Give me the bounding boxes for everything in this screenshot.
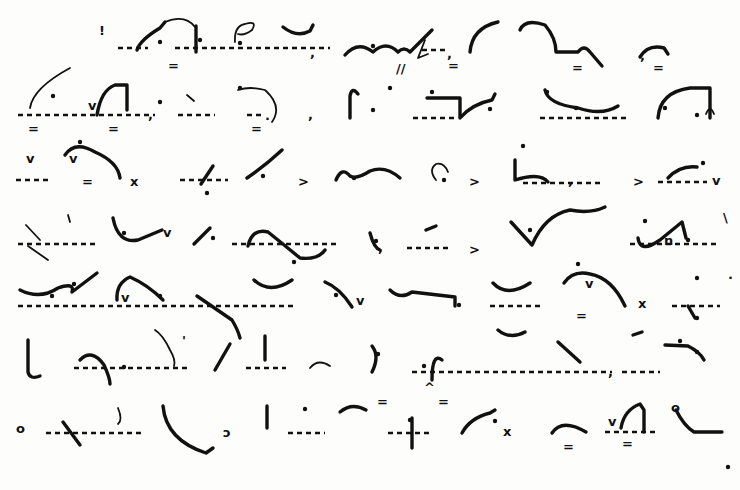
vowel-dot — [457, 303, 461, 307]
shorthand-strokes-canvas: =//===,,,!v,,===.vv=x>>,>vv,>\nvvv=x·',=… — [0, 0, 740, 490]
shorthand-stroke — [28, 340, 40, 377]
shorthand-stroke — [511, 207, 605, 245]
vowel-dot — [198, 38, 202, 42]
vowel-dot — [442, 178, 446, 182]
vowel-dot — [261, 174, 265, 178]
shorthand-mark: ! — [99, 23, 105, 38]
shorthand-mark: = — [563, 439, 574, 454]
shorthand-stroke — [345, 30, 432, 55]
shorthand-stroke — [470, 22, 498, 52]
shorthand-stroke — [350, 90, 358, 118]
shorthand-stroke — [372, 346, 376, 372]
vowel-dot — [376, 352, 380, 356]
vowel-dot — [122, 365, 126, 369]
shorthand-mark: ' — [182, 333, 186, 348]
shorthand-mark: , — [310, 45, 315, 60]
shorthand-mark: , — [447, 46, 452, 61]
shorthand-mark: · — [728, 270, 733, 285]
shorthand-mark: , — [308, 107, 313, 122]
vowel-dot — [430, 90, 434, 94]
shorthand-stroke — [552, 425, 586, 433]
shorthand-mark: v — [69, 151, 78, 166]
vowel-dot — [678, 339, 682, 343]
shorthand-mark: . — [265, 108, 270, 123]
shorthand-mark: , — [640, 48, 645, 63]
shorthand-mark: = — [28, 121, 39, 136]
shorthand-stroke — [254, 280, 292, 288]
vowel-dot — [695, 316, 699, 320]
vowel-dot — [50, 294, 54, 298]
shorthand-mark: v — [585, 276, 594, 291]
shorthand-mark: ɔ — [223, 425, 231, 440]
vowel-dot — [643, 219, 647, 223]
shorthand-stroke — [80, 355, 110, 384]
shorthand-mark: > — [469, 174, 480, 189]
vowel-dot — [701, 161, 705, 165]
shorthand-stroke — [215, 344, 230, 370]
shorthand-stroke — [28, 246, 48, 260]
vowel-dot — [238, 41, 242, 45]
shorthand-stroke — [515, 160, 548, 182]
vowel-dot — [388, 86, 392, 90]
shorthand-mark: = — [377, 394, 388, 409]
vowel-dot — [238, 86, 242, 90]
vowel-dot — [158, 40, 162, 44]
vowel-dot — [574, 106, 578, 110]
vowel-dot — [663, 106, 667, 110]
shorthand-mark: ^ — [424, 380, 435, 395]
shorthand-mark: o — [671, 400, 680, 415]
shorthand-stroke — [197, 296, 240, 338]
shorthand-stroke — [336, 169, 400, 180]
shorthand-mark: , — [378, 240, 383, 255]
vowel-dot — [493, 419, 497, 423]
shorthand-mark: x — [638, 296, 647, 311]
shorthand-stroke — [68, 215, 70, 222]
shorthand-mark: x — [130, 174, 139, 189]
shorthand-stroke — [187, 95, 194, 101]
shorthand-stroke — [238, 88, 276, 122]
shorthand-mark: = — [82, 174, 93, 189]
vowel-dot — [695, 113, 699, 117]
vowel-dot — [576, 262, 580, 266]
shorthand-stroke — [201, 166, 213, 184]
shorthand-stroke — [165, 19, 195, 27]
shorthand-mark: > — [469, 242, 480, 257]
shorthand-stroke — [340, 406, 366, 412]
shorthand-stroke — [493, 283, 530, 291]
shorthand-stroke — [427, 94, 495, 118]
shorthand-mark: v — [608, 414, 617, 429]
shorthand-stroke — [118, 408, 121, 424]
vowel-dot — [488, 107, 492, 111]
shorthand-stroke — [247, 150, 282, 178]
vowel-dot — [303, 407, 307, 411]
shorthand-stroke — [564, 273, 625, 306]
shorthand-stroke — [545, 90, 618, 112]
shorthand-stroke — [520, 22, 602, 66]
shorthand-line-3: vv=x>>,>v — [16, 140, 721, 195]
shorthand-stroke — [113, 218, 162, 241]
shorthand-mark: > — [298, 174, 309, 189]
vowel-dot — [72, 282, 76, 286]
shorthand-stroke — [688, 306, 695, 318]
shorthand-stroke — [194, 228, 210, 244]
shorthand-page: =//===,,,!v,,===.vv=x>>,>vv,>\nvvv=x·',=… — [0, 0, 740, 490]
shorthand-mark: , — [608, 364, 613, 379]
vowel-dot — [371, 44, 375, 48]
shorthand-stroke — [390, 290, 455, 306]
shorthand-mark: , — [148, 107, 153, 122]
shorthand-stroke — [310, 362, 330, 368]
shorthand-stroke — [658, 88, 710, 118]
vowel-dot — [292, 260, 296, 264]
vowel-dot — [352, 176, 356, 180]
shorthand-line-6: ',==^ — [28, 330, 704, 409]
shorthand-stroke — [558, 342, 580, 362]
vowel-dot — [158, 100, 162, 104]
shorthand-mark: \ — [723, 210, 728, 225]
vowel-dot — [408, 418, 412, 422]
shorthand-mark: v — [712, 173, 721, 188]
shorthand-mark: = — [168, 58, 179, 73]
vowel-dot — [334, 293, 338, 297]
vowel-dot — [422, 364, 426, 368]
shorthand-stroke — [30, 68, 70, 108]
vowel-dot — [686, 238, 690, 242]
